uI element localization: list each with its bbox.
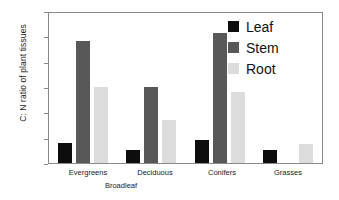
x-tick-label-conifers: Conifers [208,168,236,177]
y-axis-title: C: N ratio of plant tissues [18,0,28,158]
legend-swatch-stem [228,42,239,53]
x-tick-label-deciduous: Deciduous [137,168,172,177]
legend: Leaf Stem Root [228,16,279,79]
legend-item-root: Root [228,58,279,79]
legend-swatch-root [228,63,239,74]
bar-grasses-leaf [263,150,277,163]
legend-swatch-leaf [228,21,239,32]
bar-grasses-root [299,144,313,163]
legend-label-leaf: Leaf [246,20,273,34]
bar-conifers-stem [213,33,227,164]
plot-area [48,12,323,164]
x-tick-label-evergreens: Evergreens [69,168,107,177]
legend-label-root: Root [246,62,276,76]
bar-deciduous-root [162,120,176,163]
bar-conifers-root [231,92,245,163]
x-axis-group-label-broadleaf: Broadleaf [105,181,137,190]
bar-conifers-leaf [195,140,209,164]
y-tick-mark [44,164,48,165]
legend-item-leaf: Leaf [228,16,279,37]
bar-evergreens-root [94,87,108,163]
legend-label-stem: Stem [246,41,279,55]
bar-evergreens-leaf [58,143,72,163]
bar-deciduous-stem [144,87,158,163]
chart-figure: C: N ratio of plant tissues 300 250 200 … [0,0,339,200]
bar-evergreens-stem [76,41,90,164]
x-tick-label-grasses: Grasses [274,168,302,177]
bar-deciduous-leaf [126,150,140,164]
legend-item-stem: Stem [228,37,279,58]
